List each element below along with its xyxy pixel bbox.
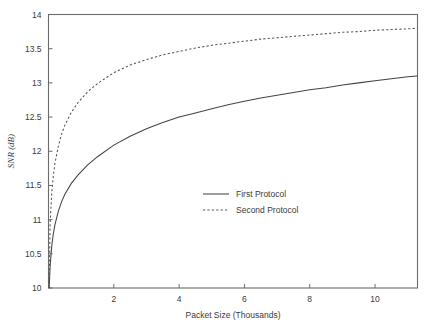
y-tick-label: 10 xyxy=(32,283,42,293)
x-tick-label: 8 xyxy=(307,294,312,304)
chart-figure: 1010.51111.51212.51313.514 246810 Packet… xyxy=(0,0,430,331)
legend-label: Second Protocol xyxy=(236,205,298,215)
x-tick-label: 6 xyxy=(242,294,247,304)
x-axis-tick-labels: 246810 xyxy=(111,294,380,304)
y-axis-tick-labels: 1010.51111.51212.51313.514 xyxy=(25,10,42,294)
y-tick-label: 12.5 xyxy=(25,112,42,122)
x-axis-ticks xyxy=(114,284,375,288)
y-tick-label: 13 xyxy=(32,78,42,88)
y-tick-label: 14 xyxy=(32,10,42,20)
series-line-solid xyxy=(49,76,417,288)
data-series-group xyxy=(49,28,417,288)
y-tick-label: 11.5 xyxy=(26,180,42,190)
y-tick-label: 11 xyxy=(33,215,42,225)
chart-plot-area: 1010.51111.51212.51313.514 246810 Packet… xyxy=(0,0,430,331)
series-line-dashed xyxy=(49,28,417,288)
legend-label: First Protocol xyxy=(236,189,286,199)
y-tick-label: 12 xyxy=(32,146,42,156)
x-tick-label: 2 xyxy=(111,294,116,304)
plot-frame xyxy=(49,15,418,289)
x-tick-label: 10 xyxy=(370,294,380,304)
y-tick-label: 13.5 xyxy=(25,44,42,54)
chart-legend: First ProtocolSecond Protocol xyxy=(203,189,298,215)
y-axis-title: SNR (dB) xyxy=(6,134,16,168)
x-tick-label: 4 xyxy=(177,294,182,304)
y-tick-label: 10.5 xyxy=(25,249,42,259)
x-axis-title: Packet Size (Thousands) xyxy=(186,310,281,320)
